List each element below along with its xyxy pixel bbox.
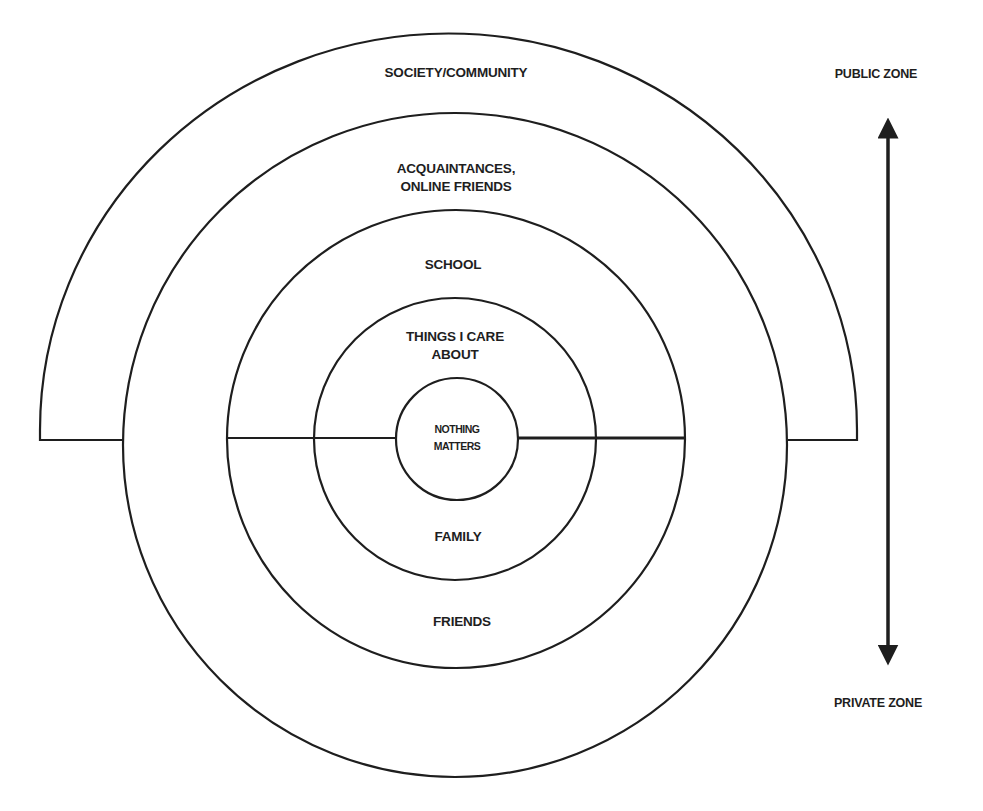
things-i-care-about-label: THINGS I CARE ABOUT [406, 328, 504, 364]
things-label-line1: THINGS I CARE [406, 328, 504, 346]
family-label: FAMILY [434, 528, 481, 546]
acquaintances-label-line2: ONLINE FRIENDS [397, 178, 515, 196]
friends-label: FRIENDS [433, 613, 491, 631]
core-label-line2: MATTERS [434, 438, 480, 455]
acquaintances-label: ACQUAINTANCES, ONLINE FRIENDS [397, 160, 515, 196]
things-label-line2: ABOUT [406, 346, 504, 364]
private-zone-label: PRIVATE ZONE [834, 695, 922, 712]
privacy-zones-diagram: SOCIETY/COMMUNITY ACQUAINTANCES, ONLINE … [0, 0, 983, 811]
school-label: SCHOOL [425, 256, 482, 274]
nothing-matters-label: NOTHING MATTERS [434, 421, 480, 455]
diagram-canvas [0, 0, 983, 811]
acquaintances-label-line1: ACQUAINTANCES, [397, 160, 515, 178]
core-label-line1: NOTHING [434, 421, 480, 438]
society-community-label: SOCIETY/COMMUNITY [385, 64, 528, 82]
public-zone-label: PUBLIC ZONE [835, 66, 918, 83]
